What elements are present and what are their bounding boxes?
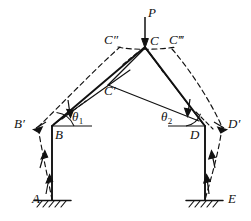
label-left-base-A: A xyxy=(32,192,40,205)
label-load-P: P xyxy=(148,6,156,19)
label-angle-theta-1: θ1 xyxy=(72,110,83,126)
support-E-group xyxy=(186,201,223,208)
chord-apex-to-right-knee xyxy=(145,48,203,124)
label-apex-C-double-prime: C″ xyxy=(104,33,118,46)
support-A-hatching xyxy=(37,201,66,207)
theta1-subscript: 1 xyxy=(78,116,83,126)
load-arrow-group xyxy=(142,17,149,48)
label-right-knee-D: D xyxy=(190,128,199,141)
sway-tick-left-head xyxy=(41,151,47,159)
chord-cprime-to-right-knee xyxy=(108,85,199,121)
label-apex-C: C xyxy=(150,34,159,47)
sway-tick-right-head xyxy=(209,151,215,159)
dprime-pointer-head xyxy=(218,127,227,133)
deflected-left-column xyxy=(38,127,52,200)
label-right-base-E: E xyxy=(228,192,236,205)
label-left-knee-B-prime: B′ xyxy=(14,117,25,130)
label-apex-C-triple-prime: C‴ xyxy=(169,33,183,46)
member-left-rafter xyxy=(52,47,145,126)
label-right-knee-D-prime: D′ xyxy=(228,117,240,130)
theta2-subscript: 2 xyxy=(167,116,172,126)
label-apex-C-prime: C′ xyxy=(104,84,116,97)
load-arrow-head xyxy=(142,39,149,49)
gabled-frame-figure: P C C″ C‴ C′ B B′ D D′ A E θ1 θ2 xyxy=(0,0,251,221)
support-E-hatching xyxy=(189,201,218,207)
label-left-knee-B: B xyxy=(55,128,63,141)
bprime-pointer-head xyxy=(34,127,43,133)
frame-diagram-svg xyxy=(0,0,251,221)
label-angle-theta-2: θ2 xyxy=(161,110,172,126)
